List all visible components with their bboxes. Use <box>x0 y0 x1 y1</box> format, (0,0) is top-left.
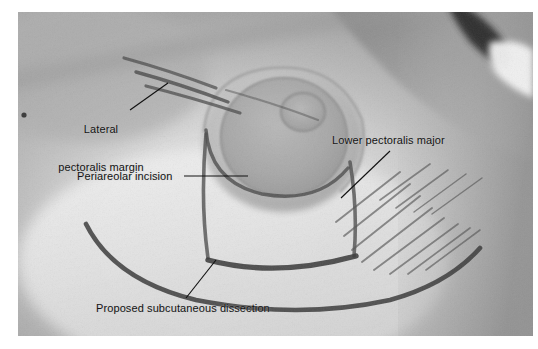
annotation-label-periareolar-incision: Periareolar incision <box>77 170 173 183</box>
annotation-label-lateral-pectoralis-margin: Lateral pectoralis margin <box>38 98 164 198</box>
figure-root: Lateral pectoralis margin Periareolar in… <box>0 0 538 349</box>
annotation-label-proposed-subcutaneous-dissection: Proposed subcutaneous dissection <box>96 302 270 315</box>
annotation-label-lower-pectoralis-major: Lower pectoralis major <box>332 134 445 147</box>
annotation-line-1: Lateral <box>38 123 164 136</box>
